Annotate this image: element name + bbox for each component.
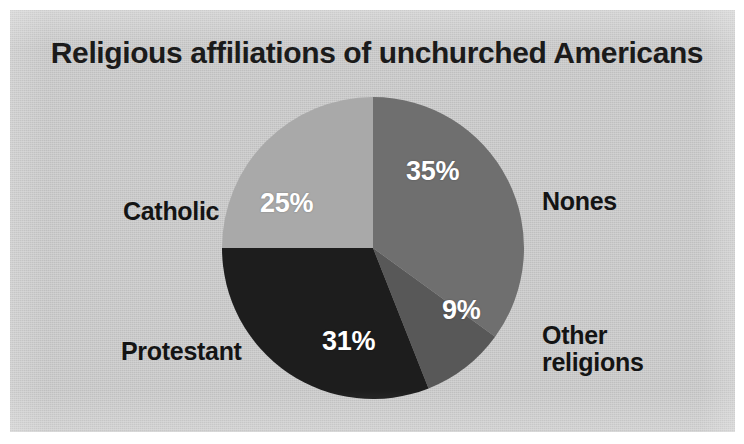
slice-label-other-religions: Other religions <box>542 322 644 376</box>
slice-label-other-religions-line2: religions <box>542 349 644 376</box>
page-canvas: Religious affiliations of unchurched Ame… <box>0 0 744 444</box>
chart-title: Religious affiliations of unchurched Ame… <box>32 36 722 70</box>
slice-value-other-religions: 9% <box>442 295 480 326</box>
slice-label-nones: Nones <box>542 188 617 215</box>
chart-panel: Religious affiliations of unchurched Ame… <box>10 10 735 432</box>
slice-value-nones: 35% <box>406 156 459 187</box>
slice-label-other-religions-line1: Other <box>542 322 644 349</box>
slice-label-catholic: Catholic <box>123 198 219 225</box>
slice-value-catholic: 25% <box>260 188 313 219</box>
slice-value-protestant: 31% <box>322 326 375 357</box>
slice-label-protestant: Protestant <box>121 338 242 365</box>
pie-slice-catholic[interactable] <box>222 97 373 248</box>
